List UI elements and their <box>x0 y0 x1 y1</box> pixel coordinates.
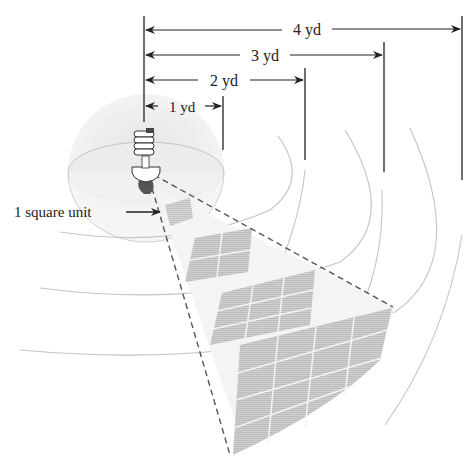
label-4yd: 4 yd <box>293 21 321 39</box>
label-1yd: 1 yd <box>169 99 196 115</box>
inverse-square-diagram: 4 yd 3 yd 2 yd 1 yd 1 square unit <box>0 0 475 462</box>
dimension-arrows <box>146 29 460 106</box>
label-1-square-unit: 1 square unit <box>14 204 92 220</box>
label-2yd: 2 yd <box>210 72 238 90</box>
label-3yd: 3 yd <box>251 47 279 65</box>
